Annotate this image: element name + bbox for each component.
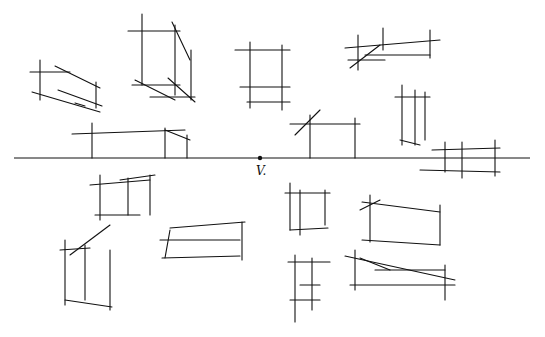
box-upper-right-flat	[345, 28, 440, 70]
box-lower-left-tall	[60, 225, 112, 310]
box-upper-center	[235, 42, 290, 110]
box-horizon-left	[72, 123, 190, 158]
box-right-tall	[395, 85, 430, 145]
box-lower-center-tall	[288, 255, 330, 322]
box-horizon-right	[420, 140, 500, 178]
vanishing-point-label: V.	[256, 164, 266, 178]
sketch-drawing	[0, 0, 545, 337]
box-lower-center	[285, 183, 330, 235]
box-upper-tall	[128, 14, 195, 102]
vanishing-point	[258, 156, 262, 160]
box-horizon-center	[290, 110, 360, 158]
box-lower-right-flat	[345, 250, 455, 300]
perspective-sketch-canvas: V.	[0, 0, 545, 337]
box-lower-left	[90, 175, 155, 220]
box-upper-left-flat	[30, 60, 102, 112]
box-lower-mid-flat	[160, 222, 245, 260]
box-lower-right	[360, 195, 440, 245]
